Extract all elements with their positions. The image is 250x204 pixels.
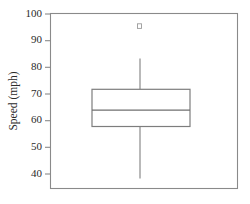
box-plot-canvas: 100 90 80 70 60 50 40 Speed (mph) bbox=[0, 0, 250, 204]
box-plot-series bbox=[92, 24, 190, 179]
y-tick-label-60: 60 bbox=[31, 113, 43, 125]
box-plot-figure: 100 90 80 70 60 50 40 Speed (mph) bbox=[0, 0, 250, 204]
y-tick-label-50: 50 bbox=[31, 140, 43, 152]
outlier-point bbox=[138, 24, 142, 29]
interquartile-box bbox=[92, 89, 190, 126]
y-tick-label-90: 90 bbox=[31, 33, 43, 45]
y-tick-label-80: 80 bbox=[31, 60, 43, 72]
y-axis-title: Speed (mph) bbox=[7, 71, 20, 130]
y-tick-label-100: 100 bbox=[26, 7, 43, 19]
y-tick-label-70: 70 bbox=[31, 87, 43, 99]
y-axis-ticks bbox=[45, 14, 51, 174]
plot-frame bbox=[51, 14, 238, 189]
y-axis-tick-labels: 100 90 80 70 60 50 40 bbox=[26, 7, 43, 179]
y-tick-label-40: 40 bbox=[31, 167, 43, 179]
